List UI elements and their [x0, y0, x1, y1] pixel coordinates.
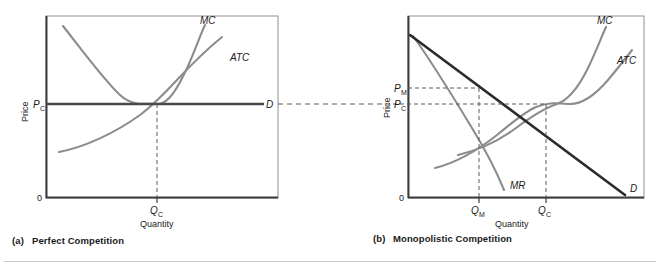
panel-b-pc-sub: C [401, 105, 406, 112]
economics-figure: MC ATC D Price P C 0 Q C Quantity (a) Pe… [0, 0, 660, 271]
panel-a-qc-base: Q [150, 205, 158, 216]
panel-b-qm-base: Q [471, 205, 479, 216]
panel-b-caption-title: Monopolistic Competition [393, 233, 512, 244]
panel-b-pm-sub: M [401, 89, 407, 96]
panel-a-caption-title: Perfect Competition [32, 235, 124, 246]
panel-a-pc-base: P [33, 99, 40, 110]
panel-a-y-axis-label: Price [20, 101, 30, 122]
panel-b-pm-base: P [394, 83, 401, 94]
panel-b-origin-label: 0 [399, 193, 404, 203]
panel-a-mc-label: MC [200, 15, 216, 26]
panel-b-caption: (b) Monopolistic Competition [373, 233, 512, 244]
panel-b-mr-label: MR [510, 180, 526, 191]
panel-b-demand-label: D [630, 183, 637, 194]
panel-a-origin-label: 0 [37, 193, 42, 203]
panel-b-qm-sub: M [479, 211, 485, 218]
panel-b-pc-base: P [394, 99, 401, 110]
panel-a-x-axis-label: Quantity [140, 219, 174, 229]
panel-b-y-axis-label: Price [382, 97, 392, 118]
figure-background [0, 0, 660, 271]
panel-b-caption-index: (b) [373, 233, 385, 244]
panel-b-qc-sub: C [546, 211, 551, 218]
panel-b-qc-base: Q [538, 205, 546, 216]
panel-a-caption-index: (a) [12, 235, 24, 246]
panel-a-demand-label: D [266, 99, 273, 110]
panel-a-pc-sub: C [40, 105, 45, 112]
panel-a-qc-sub: C [158, 211, 163, 218]
panel-a-atc-label: ATC [229, 52, 250, 63]
panel-b-mc-label: MC [597, 15, 613, 26]
panel-b-x-axis-label: Quantity [495, 219, 529, 229]
figure-container: MC ATC D Price P C 0 Q C Quantity (a) Pe… [0, 0, 660, 271]
panel-b-atc-label: ATC [616, 55, 637, 66]
